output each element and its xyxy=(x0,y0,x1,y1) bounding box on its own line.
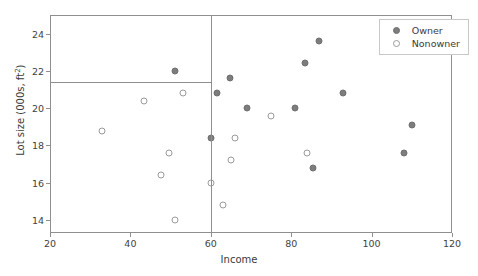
x-tick-label: 80 xyxy=(285,238,297,249)
data-point-nonowner xyxy=(268,112,275,119)
legend: Owner Nonowner xyxy=(379,19,469,55)
y-tick-mark xyxy=(46,108,50,109)
data-point-owner xyxy=(302,60,309,67)
income-split xyxy=(211,15,212,233)
data-point-owner xyxy=(310,164,317,171)
data-point-nonowner xyxy=(171,216,178,223)
data-point-owner xyxy=(292,105,299,112)
legend-label-nonowner: Nonowner xyxy=(408,38,460,49)
x-tick-mark xyxy=(50,233,51,237)
nonowner-marker-icon xyxy=(386,40,408,47)
legend-item-nonowner: Nonowner xyxy=(386,37,460,50)
data-point-owner xyxy=(408,121,415,128)
y-tick-mark xyxy=(46,220,50,221)
legend-label-owner: Owner xyxy=(408,25,443,36)
data-point-nonowner xyxy=(179,90,186,97)
data-point-owner xyxy=(400,149,407,156)
x-tick-mark xyxy=(291,233,292,237)
y-tick-mark xyxy=(46,34,50,35)
x-tick-label: 20 xyxy=(44,238,56,249)
y-tick-mark xyxy=(46,183,50,184)
owner-marker-icon xyxy=(386,27,408,34)
data-point-nonowner xyxy=(141,97,148,104)
data-point-nonowner xyxy=(219,202,226,209)
data-point-nonowner xyxy=(304,149,311,156)
data-point-owner xyxy=(227,75,234,82)
y-axis-label-tail: ) xyxy=(15,64,26,68)
y-axis-label-exponent: 2 xyxy=(14,68,22,72)
data-point-owner xyxy=(213,90,220,97)
y-tick-label: 14 xyxy=(4,214,44,225)
x-tick-mark xyxy=(452,233,453,237)
data-point-nonowner xyxy=(157,172,164,179)
x-tick-mark xyxy=(372,233,373,237)
x-tick-mark xyxy=(130,233,131,237)
x-tick-label: 120 xyxy=(443,238,461,249)
y-tick-mark xyxy=(46,145,50,146)
data-point-nonowner xyxy=(99,127,106,134)
data-point-owner xyxy=(171,67,178,74)
y-tick-mark xyxy=(46,71,50,72)
x-tick-mark xyxy=(211,233,212,237)
data-point-nonowner xyxy=(165,149,172,156)
data-point-owner xyxy=(316,38,323,45)
data-point-owner xyxy=(340,90,347,97)
x-tick-label: 60 xyxy=(205,238,217,249)
legend-item-owner: Owner xyxy=(386,24,460,37)
x-axis-label: Income xyxy=(0,254,478,265)
y-axis-label-base: Lot size (000s, ft xyxy=(15,73,26,156)
x-tick-label: 100 xyxy=(363,238,381,249)
data-point-nonowner xyxy=(231,134,238,141)
scatter-plot-figure: 20406080100120 141618202224 Income Lot s… xyxy=(0,0,478,276)
data-point-nonowner xyxy=(227,157,234,164)
data-point-owner xyxy=(243,105,250,112)
x-tick-label: 40 xyxy=(124,238,136,249)
lotsize-split xyxy=(50,82,211,83)
y-axis-label: Lot size (000s, ft2) xyxy=(14,30,26,190)
